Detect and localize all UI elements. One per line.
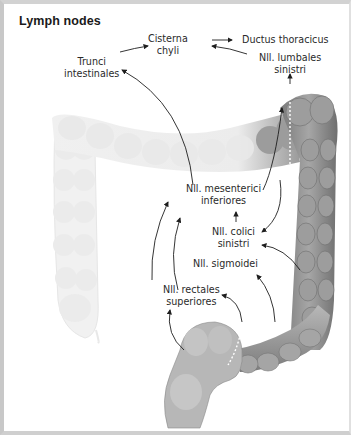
label-line: intestinales (64, 68, 119, 80)
label-line: chyli (148, 45, 188, 57)
label-ductus-thoracicus: Ductus thoracicus (242, 34, 328, 46)
arrow-descending-to-colici (262, 180, 281, 232)
label-line: sinistri (212, 238, 255, 250)
arrow-sigmoidei-to-mesenterici-1 (173, 218, 180, 290)
label-cisterna-chyli: Cisterna chyli (148, 33, 188, 57)
label-line: Nll. lumbales (259, 52, 321, 64)
label-line: Nll. rectales (163, 284, 220, 296)
arrow-sigmoid-to-colici (262, 245, 300, 270)
label-nll-lumbales-sinistri: Nll. lumbales sinistri (259, 52, 321, 76)
label-line: sinistri (259, 64, 321, 76)
arrow-trunci-to-cisterna (120, 46, 148, 52)
rectum (164, 322, 242, 428)
label-nll-colici-sinistri: Nll. colici sinistri (212, 226, 255, 250)
arrow-rectales-to-mesenterici (152, 202, 168, 280)
label-nll-sigmoidei: Nll. sigmoidei (193, 258, 258, 270)
arrow-lumbales-to-cisterna (212, 46, 247, 54)
label-line: Trunci (64, 56, 119, 68)
label-line: Nll. colici (212, 226, 255, 238)
arrow-rectum-to-rectales (222, 295, 242, 322)
label-line: Nll. mesenterici (186, 183, 261, 195)
arrow-sigmoid-up (257, 275, 275, 322)
sigmoid-colon (232, 305, 330, 373)
label-nll-rectales-superiores: Nll. rectales superiores (163, 284, 220, 308)
label-trunci-intestinales: Trunci intestinales (64, 56, 119, 80)
label-line: superiores (163, 296, 220, 308)
figure-title: Lymph nodes (19, 14, 101, 28)
label-line: inferiores (186, 195, 261, 207)
label-nll-mesenterici-inferiores: Nll. mesenterici inferiores (186, 183, 261, 207)
label-line: Cisterna (148, 33, 188, 45)
